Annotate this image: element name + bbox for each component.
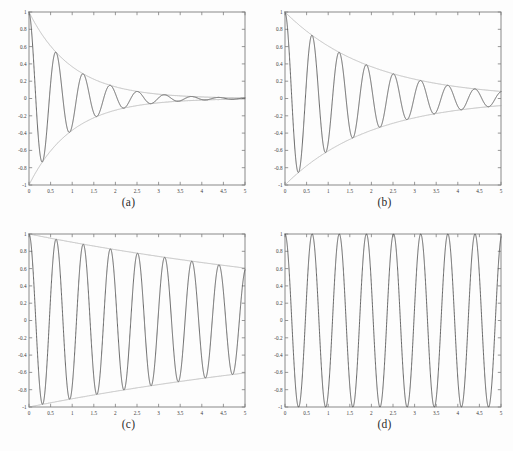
x-tick-label: 4 (457, 410, 460, 416)
x-tick-label: 0.5 (47, 188, 54, 194)
subplot-c-canvas: 00.511.522.533.544.55-1-0.8-0.6-0.4-0.20… (0, 222, 257, 418)
x-tick-label: 1 (327, 410, 330, 416)
series-response (285, 234, 501, 407)
x-tick-label: 0 (284, 188, 287, 194)
y-tick-label: 0.2 (276, 300, 283, 306)
subplot-a-canvas: 00.511.522.533.544.55-1-0.8-0.6-0.4-0.20… (0, 0, 257, 196)
y-tick-label: 0.6 (20, 44, 27, 50)
x-tick-label: 2.5 (134, 410, 141, 416)
x-tick-label: 1.5 (91, 410, 98, 416)
y-tick-label: -1 (22, 404, 27, 410)
x-tick-label: 3 (157, 410, 160, 416)
y-tick-label: -0.6 (18, 147, 27, 153)
y-tick-label: -0.6 (18, 369, 27, 375)
y-tick-label: 0.4 (276, 61, 283, 67)
y-tick-label: -0.6 (274, 147, 283, 153)
y-tick-label: 0.4 (20, 61, 27, 67)
y-tick-label: -1 (22, 182, 27, 188)
x-tick-label: 4.5 (220, 410, 227, 416)
y-tick-label: 1 (24, 231, 27, 237)
x-tick-label: 4.5 (476, 188, 483, 194)
subplot-b-canvas: 00.511.522.533.544.55-1-0.8-0.6-0.4-0.20… (256, 0, 513, 196)
x-tick-label: 3.5 (177, 410, 184, 416)
x-tick-label: 5 (500, 410, 503, 416)
x-tick-label: 1 (71, 410, 74, 416)
y-tick-label: -0.8 (18, 387, 27, 393)
x-tick-label: 3 (413, 188, 416, 194)
page-bleed-text (4, 443, 509, 451)
subplot-a: 00.511.522.533.544.55-1-0.8-0.6-0.4-0.20… (0, 0, 257, 196)
caption-d: (d) (256, 418, 513, 430)
y-tick-label: 0 (24, 95, 27, 101)
y-tick-label: 0.8 (20, 248, 27, 254)
x-tick-label: 1.5 (347, 188, 354, 194)
x-tick-label: 0 (28, 188, 31, 194)
y-tick-label: 0 (280, 317, 283, 323)
x-tick-label: 4 (201, 410, 204, 416)
y-tick-label: 0.2 (20, 78, 27, 84)
x-tick-label: 4 (457, 188, 460, 194)
x-tick-label: 2 (114, 188, 117, 194)
y-tick-label: 0 (280, 95, 283, 101)
y-tick-label: -0.2 (18, 335, 27, 341)
y-tick-label: -0.8 (274, 387, 283, 393)
x-tick-label: 1 (71, 188, 74, 194)
subplot-c: 00.511.522.533.544.55-1-0.8-0.6-0.4-0.20… (0, 222, 257, 418)
series-response (29, 234, 245, 404)
x-tick-label: 2 (370, 188, 373, 194)
subplot-d: 00.511.522.533.544.55-1-0.8-0.6-0.4-0.20… (256, 222, 513, 418)
y-tick-label: 1 (280, 231, 283, 237)
y-tick-label: 0.6 (276, 266, 283, 272)
x-tick-label: 3 (157, 188, 160, 194)
x-tick-label: 0.5 (303, 410, 310, 416)
y-tick-label: 0.2 (276, 78, 283, 84)
y-tick-label: 1 (280, 9, 283, 15)
x-tick-label: 3 (413, 410, 416, 416)
y-tick-label: 0.6 (276, 44, 283, 50)
caption-b: (b) (256, 196, 513, 208)
y-tick-label: 0.8 (20, 26, 27, 32)
x-tick-label: 2.5 (390, 410, 397, 416)
figure-panel-grid: 00.511.522.533.544.55-1-0.8-0.6-0.4-0.20… (0, 0, 513, 451)
x-tick-label: 4.5 (476, 410, 483, 416)
y-tick-label: 0.6 (20, 266, 27, 272)
subplot-b: 00.511.522.533.544.55-1-0.8-0.6-0.4-0.20… (256, 0, 513, 196)
x-tick-label: 0 (28, 410, 31, 416)
caption-c: (c) (0, 418, 257, 430)
x-tick-label: 2.5 (390, 188, 397, 194)
y-tick-label: -0.4 (274, 130, 283, 136)
y-tick-label: 0.8 (276, 26, 283, 32)
y-tick-label: -0.8 (18, 165, 27, 171)
x-tick-label: 1 (327, 188, 330, 194)
y-tick-label: -0.4 (18, 130, 27, 136)
y-tick-label: 0.4 (276, 283, 283, 289)
x-tick-label: 5 (500, 188, 503, 194)
x-tick-label: 2 (114, 410, 117, 416)
y-tick-label: -0.8 (274, 165, 283, 171)
y-tick-label: -0.4 (18, 352, 27, 358)
y-tick-label: 1 (24, 9, 27, 15)
x-tick-label: 0 (284, 410, 287, 416)
x-tick-label: 4.5 (220, 188, 227, 194)
x-tick-label: 0.5 (303, 188, 310, 194)
x-tick-label: 3.5 (433, 410, 440, 416)
x-tick-label: 2 (370, 410, 373, 416)
x-tick-label: 2.5 (134, 188, 141, 194)
x-tick-label: 0.5 (47, 410, 54, 416)
y-tick-label: -0.2 (274, 335, 283, 341)
y-tick-label: -0.4 (274, 352, 283, 358)
y-tick-label: 0.2 (20, 300, 27, 306)
caption-a: (a) (0, 196, 257, 208)
series-upper-envelope (29, 234, 245, 268)
x-tick-label: 4 (201, 188, 204, 194)
x-tick-label: 5 (244, 188, 247, 194)
x-tick-label: 1.5 (347, 410, 354, 416)
x-tick-label: 3.5 (177, 188, 184, 194)
series-lower-envelope (29, 373, 245, 407)
y-tick-label: -0.2 (18, 113, 27, 119)
series-lower-envelope (29, 99, 245, 185)
subplot-d-canvas: 00.511.522.533.544.55-1-0.8-0.6-0.4-0.20… (256, 222, 513, 418)
y-tick-label: -0.2 (274, 113, 283, 119)
y-tick-label: -1 (278, 404, 283, 410)
series-response (285, 12, 501, 173)
